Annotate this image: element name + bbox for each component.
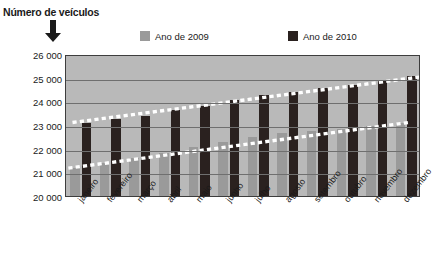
y-axis-tick-label: 22 000	[2, 144, 62, 155]
arrow-down-icon	[45, 20, 61, 42]
trendline-1	[73, 77, 419, 123]
legend-entry-1: Ano de 2010	[288, 31, 357, 45]
gridline	[66, 80, 419, 81]
y-axis-tick-label: 26 000	[2, 50, 62, 61]
bar-maio-ano-de-2009	[189, 147, 199, 196]
bar-abril-ano-de-2010	[171, 110, 181, 196]
bar-julho-ano-de-2010	[259, 95, 269, 196]
bar-novembro-ano-de-2009	[366, 126, 376, 196]
y-axis-tick-label: 25 000	[2, 73, 62, 84]
bar-julho-ano-de-2009	[248, 137, 258, 196]
legend-entry-0: Ano de 2009	[140, 31, 209, 45]
bar-outubro-ano-de-2009	[337, 129, 347, 196]
chart-axis-title: Número de veículos	[3, 6, 99, 18]
bar-agosto-ano-de-2009	[277, 133, 287, 196]
gridline	[66, 174, 419, 175]
y-axis: 26 00025 00024 00023 00022 00021 00020 0…	[0, 55, 62, 197]
gridline	[66, 103, 419, 104]
gridline	[66, 127, 419, 128]
y-axis-tick-label: 21 000	[2, 168, 62, 179]
chart-legend: Ano de 2009Ano de 2010	[140, 31, 420, 45]
legend-label-1: Ano de 2010	[303, 31, 357, 42]
bar-setembro-ano-de-2009	[307, 131, 317, 196]
x-axis: janeirofevereiromarçoabrilmaiojunhojulho…	[65, 198, 420, 253]
plot-area	[65, 55, 420, 197]
bar-dezembro-ano-de-2009	[396, 123, 406, 196]
y-axis-tick-label: 23 000	[2, 121, 62, 132]
y-axis-tick-label: 20 000	[2, 192, 62, 203]
legend-label-0: Ano de 2009	[155, 31, 209, 42]
bar-janeiro-ano-de-2009	[70, 168, 80, 196]
gridline	[66, 151, 419, 152]
legend-swatch-1	[288, 31, 298, 41]
legend-swatch-0	[140, 31, 150, 41]
y-axis-tick-label: 24 000	[2, 97, 62, 108]
bar-fevereiro-ano-de-2009	[100, 163, 110, 196]
